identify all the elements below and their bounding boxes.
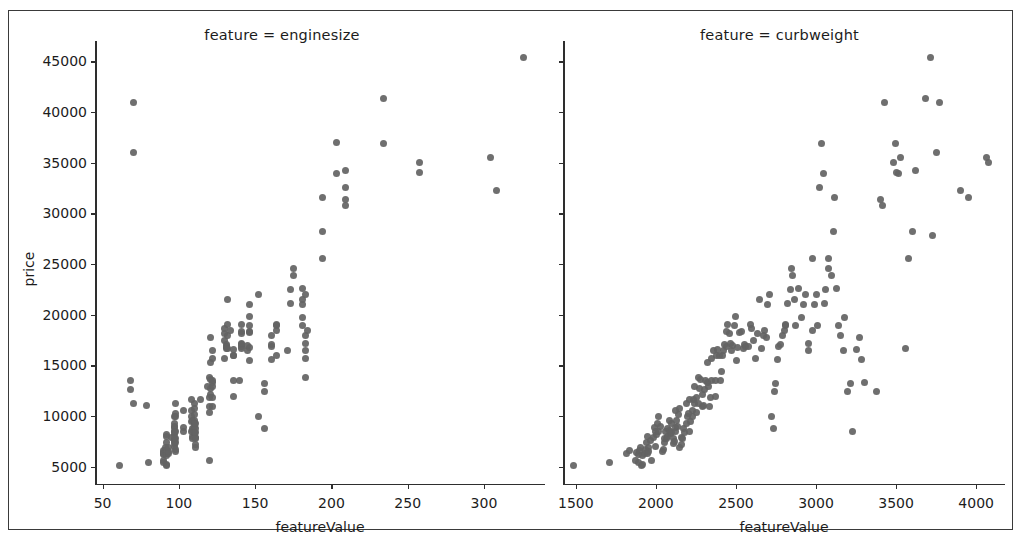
scatter-point xyxy=(856,334,863,341)
scatter-point xyxy=(922,95,929,102)
scatter-point xyxy=(116,462,123,469)
scatter-point xyxy=(172,428,179,435)
scatter-point xyxy=(172,413,179,420)
scatter-point xyxy=(912,167,919,174)
scatter-point xyxy=(830,228,837,235)
scatter-point xyxy=(246,313,253,320)
scatter-point xyxy=(890,159,897,166)
scatter-point xyxy=(821,300,828,307)
scatter-point xyxy=(820,170,827,177)
scatter-point xyxy=(319,194,326,201)
y-tick-mark xyxy=(559,365,564,366)
scatter-point xyxy=(813,291,820,298)
scatter-point xyxy=(639,461,646,468)
scatter-point xyxy=(145,459,152,466)
x-axis-label-right: featureValue xyxy=(563,519,1005,535)
scatter-point xyxy=(873,388,880,395)
x-tick-label: 200 xyxy=(318,495,345,511)
x-tick-label: 150 xyxy=(242,495,269,511)
scatter-point xyxy=(758,345,765,352)
scatter-point xyxy=(416,159,423,166)
scatter-point xyxy=(273,352,280,359)
scatter-point xyxy=(927,54,934,61)
scatter-point xyxy=(380,140,387,147)
scatter-point xyxy=(648,457,655,464)
scatter-point xyxy=(800,301,807,308)
scatter-point xyxy=(788,265,795,272)
scatter-point xyxy=(192,435,199,442)
scatter-point xyxy=(255,291,262,298)
scatter-point xyxy=(768,413,775,420)
scatter-point xyxy=(487,154,494,161)
x-tick-label: 50 xyxy=(94,495,112,511)
panel-curbweight: feature = curbweight featureValue 150020… xyxy=(552,18,1007,518)
scatter-point xyxy=(287,286,294,293)
scatter-point xyxy=(763,334,770,341)
scatter-point xyxy=(756,296,763,303)
scatter-point xyxy=(180,407,187,414)
scatter-point xyxy=(792,322,799,329)
scatter-point xyxy=(770,425,777,432)
scatter-point xyxy=(246,344,253,351)
scatter-point xyxy=(833,285,840,292)
scatter-point xyxy=(787,286,794,293)
scatter-point xyxy=(606,459,613,466)
scatter-point xyxy=(130,99,137,106)
scatter-point xyxy=(686,428,693,435)
scatter-point xyxy=(811,301,818,308)
y-tick-mark xyxy=(559,61,564,62)
scatter-point xyxy=(798,314,805,321)
scatter-point xyxy=(238,321,245,328)
scatter-point xyxy=(209,355,216,362)
scatter-point xyxy=(791,296,798,303)
x-tick-mark xyxy=(331,484,332,489)
scatter-point xyxy=(302,355,309,362)
scatter-point xyxy=(319,255,326,262)
scatter-point xyxy=(273,321,280,328)
scatter-point xyxy=(520,54,527,61)
scatter-point xyxy=(238,330,245,337)
scatter-point xyxy=(221,355,228,362)
y-tick-mark xyxy=(559,467,564,468)
y-tick-label: 45000 xyxy=(42,53,87,69)
x-axis-label-left: featureValue xyxy=(95,519,545,535)
scatter-point xyxy=(847,380,854,387)
scatter-point xyxy=(197,396,204,403)
y-tick-mark xyxy=(91,213,96,214)
axes-curbweight: featureValue 150020002500300035004000 xyxy=(563,41,1005,485)
scatter-point xyxy=(929,232,936,239)
scatter-point xyxy=(761,327,768,334)
x-tick-label: 3000 xyxy=(798,495,834,511)
scatter-point xyxy=(795,285,802,292)
y-tick-mark xyxy=(91,163,96,164)
scatter-point xyxy=(936,99,943,106)
y-tick-mark xyxy=(559,112,564,113)
scatter-point xyxy=(772,380,779,387)
y-tick-mark xyxy=(91,467,96,468)
scatter-point xyxy=(236,377,243,384)
scatter-point xyxy=(706,403,713,410)
scatter-point xyxy=(302,374,309,381)
x-tick-label: 4000 xyxy=(958,495,994,511)
scatter-point xyxy=(302,340,309,347)
scatter-point xyxy=(261,380,268,387)
x-tick-label: 300 xyxy=(471,495,498,511)
scatter-point xyxy=(380,95,387,102)
scatter-point xyxy=(814,322,821,329)
scatter-point xyxy=(299,301,306,308)
scatter-point xyxy=(261,425,268,432)
y-tick-mark xyxy=(559,213,564,214)
scatter-point xyxy=(822,286,829,293)
scatter-point xyxy=(805,347,812,354)
scatter-point xyxy=(130,149,137,156)
y-tick-label: 30000 xyxy=(42,205,87,221)
y-tick-label: 35000 xyxy=(42,155,87,171)
scatter-point xyxy=(209,394,216,401)
y-tick-label: 5000 xyxy=(51,459,87,475)
scatter-point xyxy=(733,357,740,364)
scatter-point xyxy=(784,300,791,307)
scatter-point xyxy=(844,388,851,395)
x-tick-mark xyxy=(484,484,485,489)
scatter-point xyxy=(660,446,667,453)
scatter-point xyxy=(902,345,909,352)
